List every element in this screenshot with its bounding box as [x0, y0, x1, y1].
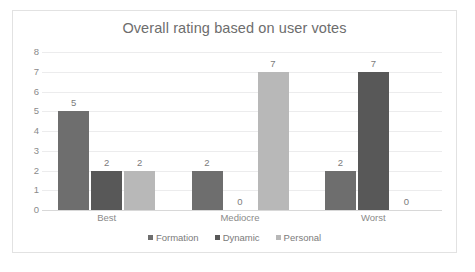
chart-title: Overall rating based on user votes [13, 20, 456, 36]
gridline [42, 210, 442, 211]
bar-dynamic-worst[interactable] [358, 72, 389, 210]
bar-value-label: 0 [237, 197, 242, 207]
chart-legend: FormationDynamicPersonal [13, 233, 456, 243]
legend-item-personal[interactable]: Personal [276, 233, 322, 243]
bar-formation-worst[interactable] [325, 171, 356, 211]
bar-personal-best[interactable] [124, 171, 155, 211]
bar-personal-mediocre[interactable] [258, 72, 289, 210]
y-axis-tick-label: 0 [25, 205, 39, 215]
y-axis-tick-label: 2 [25, 166, 39, 176]
legend-label: Dynamic [223, 233, 260, 243]
x-axis: BestMediocreWorst [42, 213, 442, 227]
y-axis-tick-label: 7 [25, 67, 39, 77]
bar-value-label: 7 [270, 59, 275, 69]
bar-value-label: 2 [137, 158, 142, 168]
y-axis-tick-label: 3 [25, 146, 39, 156]
bar-formation-mediocre[interactable] [192, 171, 223, 211]
gridline [42, 52, 442, 53]
bar-value-label: 7 [371, 59, 376, 69]
bar-formation-best[interactable] [58, 111, 89, 210]
y-axis-tick-label: 1 [25, 186, 39, 196]
bar-value-label: 2 [104, 158, 109, 168]
legend-item-formation[interactable]: Formation [148, 233, 199, 243]
y-axis: 012345678 [25, 52, 39, 210]
chart-container: Overall rating based on user votes 01234… [12, 10, 457, 253]
y-axis-tick-label: 5 [25, 107, 39, 117]
x-axis-category-label: Worst [361, 213, 386, 223]
legend-swatch-icon [215, 235, 220, 240]
legend-swatch-icon [148, 235, 153, 240]
legend-swatch-icon [276, 235, 281, 240]
x-axis-category-label: Mediocre [220, 213, 259, 223]
bar-value-label: 2 [338, 158, 343, 168]
y-axis-tick-label: 4 [25, 126, 39, 136]
bar-value-label: 2 [204, 158, 209, 168]
plot-area: 522207270 [42, 52, 442, 210]
y-axis-tick-label: 8 [25, 47, 39, 57]
legend-item-dynamic[interactable]: Dynamic [215, 233, 260, 243]
y-axis-tick-label: 6 [25, 87, 39, 97]
legend-label: Formation [156, 233, 199, 243]
bar-value-label: 5 [71, 98, 76, 108]
bar-dynamic-best[interactable] [91, 171, 122, 211]
bar-value-label: 0 [404, 197, 409, 207]
legend-label: Personal [284, 233, 322, 243]
x-axis-category-label: Best [97, 213, 116, 223]
